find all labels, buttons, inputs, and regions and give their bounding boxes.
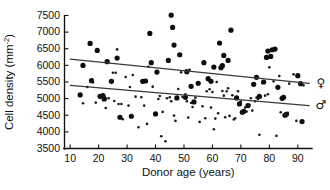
data-point-female: [78, 92, 83, 97]
data-point-male: [112, 71, 115, 74]
data-point-male: [191, 106, 194, 109]
data-point-female: [225, 58, 230, 63]
data-point-male: [237, 90, 240, 93]
data-point-male: [210, 106, 213, 109]
data-point-male: [113, 100, 116, 103]
data-point-male: [259, 96, 262, 99]
data-point-male: [194, 96, 197, 99]
data-point-male: [224, 116, 227, 119]
data-point-male: [100, 94, 103, 97]
data-point-female: [196, 81, 201, 86]
y-tick-label-4500: 4500: [37, 109, 61, 121]
data-point-male: [214, 117, 217, 120]
data-point-male: [117, 103, 120, 106]
y-tick-label-7500: 7500: [37, 9, 61, 21]
data-point-male: [208, 88, 211, 91]
data-point-female: [80, 63, 85, 68]
data-point-male: [131, 74, 134, 77]
data-point-male: [272, 80, 275, 83]
y-axis-title: Cell density (mm-2): [2, 34, 15, 130]
data-point-male: [287, 112, 290, 115]
x-tick-label-20: 20: [93, 152, 105, 164]
data-point-male: [166, 97, 169, 100]
data-point-female: [147, 31, 152, 36]
data-point-male: [228, 115, 231, 118]
data-point-female: [211, 64, 216, 69]
data-point-female: [221, 53, 226, 58]
data-point-male: [120, 103, 123, 106]
data-point-female: [166, 58, 171, 63]
data-point-female: [95, 48, 100, 53]
y-tick-label-6000: 6000: [37, 59, 61, 71]
data-point-female: [129, 114, 134, 119]
data-point-female: [177, 52, 182, 57]
x-tick-label-40: 40: [150, 152, 162, 164]
data-point-female: [228, 28, 233, 33]
data-point-female: [275, 85, 280, 90]
data-point-female: [201, 60, 206, 65]
data-point-male: [170, 100, 173, 103]
data-point-male: [221, 90, 224, 93]
data-point-male: [181, 96, 184, 99]
data-point-male: [157, 98, 160, 101]
data-point-male: [173, 114, 176, 117]
data-point-female: [295, 73, 300, 78]
data-point-male: [151, 85, 154, 88]
data-point-male: [122, 118, 125, 121]
data-point-female: [115, 55, 120, 60]
y-tick-label-5000: 5000: [37, 92, 61, 104]
x-tick-label-60: 60: [207, 152, 219, 164]
data-point-male: [198, 121, 201, 124]
data-point-male: [159, 95, 162, 98]
data-point-male: [146, 123, 149, 126]
data-point-male: [116, 48, 119, 51]
x-axis-ticks: 102030405060708090: [64, 145, 303, 164]
data-point-male: [137, 126, 140, 129]
data-point-male: [234, 117, 237, 120]
data-point-male: [177, 88, 180, 91]
data-point-male: [240, 100, 243, 103]
data-point-male: [82, 102, 85, 105]
legend: ♀♂: [316, 76, 327, 112]
data-point-male: [143, 104, 146, 107]
x-axis-title: Donor age (years): [142, 166, 235, 178]
data-point-female: [174, 95, 179, 100]
data-point-male: [302, 84, 305, 87]
data-point-male: [190, 102, 193, 105]
data-point-male: [241, 112, 244, 115]
data-point-female: [268, 54, 273, 59]
y-tick-label-3500: 3500: [37, 142, 61, 154]
y-axis-ticks: 350040004500500055006000650070007500: [37, 9, 69, 154]
y-tick-label-6500: 6500: [37, 42, 61, 54]
data-point-male: [174, 120, 177, 123]
scatter-chart-figure: 350040004500500055006000650070007500 102…: [0, 0, 330, 190]
data-point-male: [102, 99, 105, 102]
data-point-male: [92, 81, 95, 84]
data-point-male: [279, 111, 282, 114]
data-point-female: [153, 111, 158, 116]
data-point-male: [284, 113, 287, 116]
x-tick-label-50: 50: [178, 152, 190, 164]
data-point-female: [171, 42, 176, 47]
x-tick-label-90: 90: [292, 152, 304, 164]
data-point-female: [188, 84, 193, 89]
data-point-female: [299, 119, 304, 124]
data-point-male: [258, 134, 261, 137]
data-point-male: [288, 82, 291, 85]
data-point-male: [211, 91, 214, 94]
data-point-male: [187, 116, 190, 119]
legend-symbol-female: ♀: [317, 76, 326, 90]
data-point-male: [217, 112, 220, 115]
data-point-male: [264, 94, 267, 97]
data-point-female: [217, 41, 222, 46]
data-point-male: [104, 107, 107, 110]
data-point-male: [268, 66, 271, 69]
legend-symbol-male: ♂: [316, 98, 327, 112]
data-point-male: [140, 96, 143, 99]
data-point-male: [180, 71, 183, 74]
data-point-male: [124, 76, 127, 79]
data-points-layer: [78, 13, 305, 143]
data-point-female: [149, 60, 154, 65]
data-point-male: [164, 140, 167, 143]
x-tick-label-30: 30: [121, 152, 133, 164]
